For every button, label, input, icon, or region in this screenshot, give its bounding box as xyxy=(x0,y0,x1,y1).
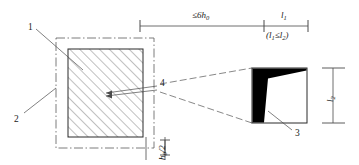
callout-label-1: 1 xyxy=(28,23,33,33)
diagram-vector-layer xyxy=(0,0,359,165)
dimension-label-span-right: l1 xyxy=(281,11,287,20)
callout-label-3: 3 xyxy=(295,129,300,139)
dimension-label-right-vertical: l2 xyxy=(326,96,335,102)
dimension-label-span-left: ≤6h0 xyxy=(192,11,209,20)
dimension-note-span-right: (l1≤l2) xyxy=(266,31,288,40)
dimension-label-bottom-h-half: h0/2 xyxy=(158,145,167,160)
figure-canvas: ≤6h0 l1 (l1≤l2) h0/2 l2 1 2 4 3 xyxy=(0,0,359,165)
callout-leader-2 xyxy=(24,88,56,113)
detail-projection-lines xyxy=(160,68,252,123)
callout-label-2: 2 xyxy=(14,115,19,125)
callout-label-4: 4 xyxy=(160,79,165,89)
